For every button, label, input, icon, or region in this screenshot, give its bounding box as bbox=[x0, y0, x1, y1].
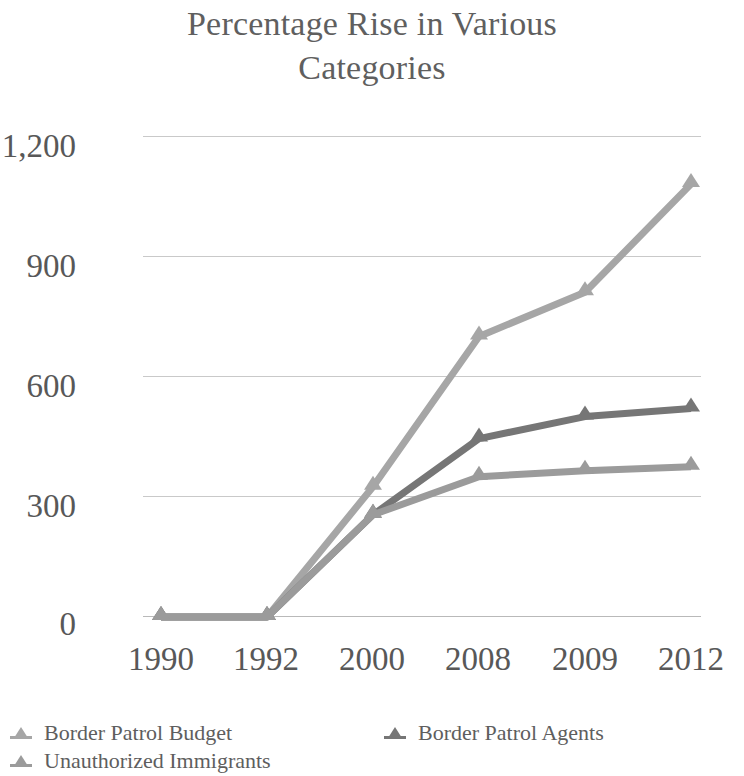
triangle-marker-icon bbox=[10, 726, 32, 740]
triangle-marker-icon bbox=[384, 726, 406, 740]
legend-label: Unauthorized Immigrants bbox=[44, 750, 271, 772]
triangle-marker-icon bbox=[10, 754, 32, 768]
series-line bbox=[161, 467, 691, 617]
legend-item-border-patrol-agents[interactable]: Border Patrol Agents bbox=[384, 722, 604, 744]
legend-label: Border Patrol Agents bbox=[418, 722, 604, 744]
legend-item-unauthorized-immigrants[interactable]: Unauthorized Immigrants bbox=[10, 750, 271, 772]
series-layer bbox=[0, 0, 744, 776]
series-border-patrol-budget bbox=[152, 173, 700, 620]
data-point-marker bbox=[682, 398, 700, 412]
data-point-marker bbox=[682, 173, 700, 187]
data-point-marker bbox=[576, 460, 594, 474]
series-border-patrol-agents bbox=[152, 398, 700, 620]
legend-label: Border Patrol Budget bbox=[44, 722, 232, 744]
series-line bbox=[161, 409, 691, 617]
data-point-marker bbox=[682, 456, 700, 470]
chart-container: Percentage Rise in Various Categories 1,… bbox=[0, 0, 744, 776]
data-point-marker bbox=[576, 406, 594, 420]
series-line bbox=[161, 184, 691, 617]
data-point-marker bbox=[152, 606, 170, 620]
chart-legend: Border Patrol Budget Border Patrol Agent… bbox=[6, 722, 744, 776]
data-point-marker bbox=[470, 466, 488, 480]
legend-item-border-patrol-budget[interactable]: Border Patrol Budget bbox=[10, 722, 232, 744]
